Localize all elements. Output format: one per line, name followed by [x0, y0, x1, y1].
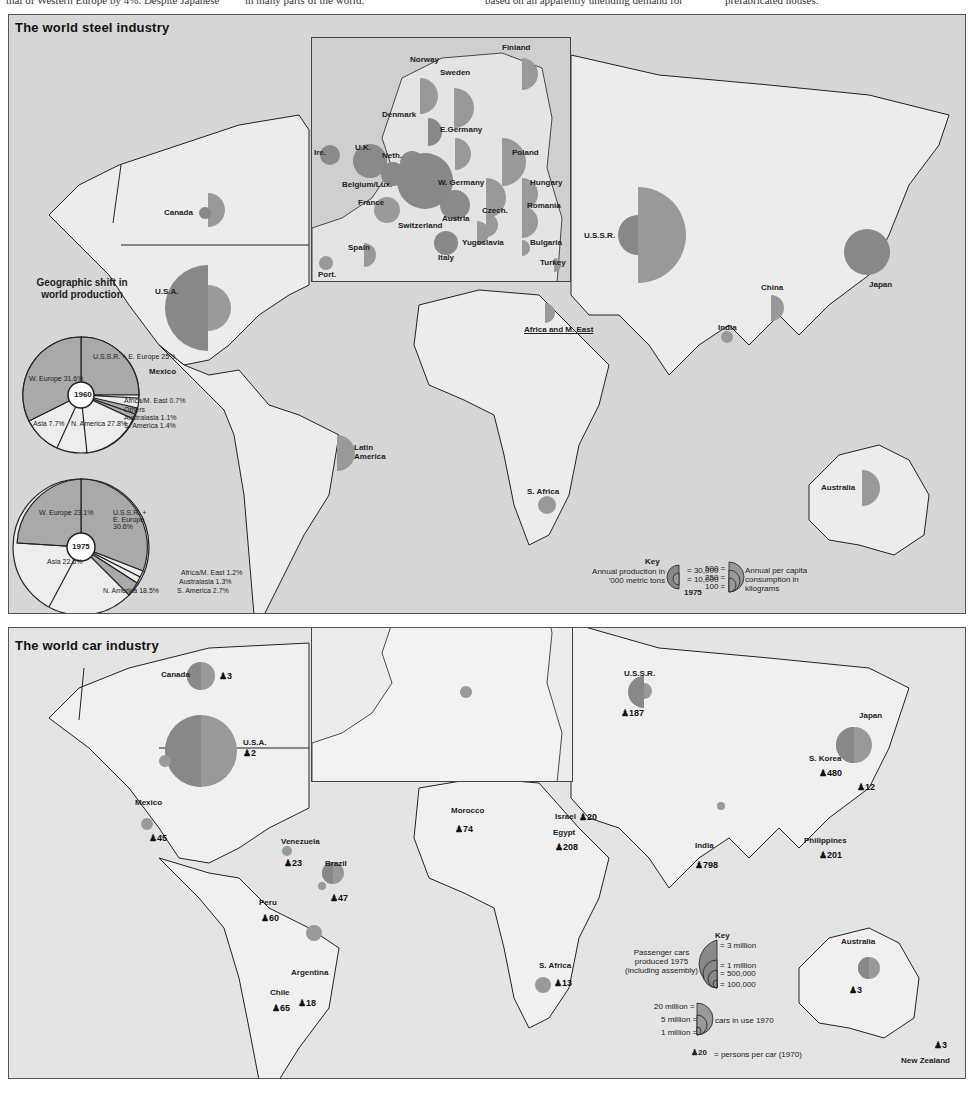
- car-label-peru: Peru: [259, 898, 277, 907]
- label-usa: U.S.A.: [155, 287, 179, 296]
- label-ussr: U.S.S.R.: [584, 231, 615, 240]
- pie-1960-s-america: S. America 1.4%: [124, 422, 176, 429]
- persons-s-korea: ♟480: [819, 768, 842, 778]
- car-label-canada: Canada: [161, 670, 190, 679]
- pie-1975-w-europe: W. Europe 23.1%: [39, 509, 93, 516]
- car-key-produced-label: Passenger cars produced 1975 (including …: [624, 948, 699, 975]
- car-industry-map: The world car industry: [8, 627, 966, 1079]
- car-key-20-million: 20 million =: [654, 1002, 695, 1011]
- persons-india: ♟798: [695, 860, 718, 870]
- steel-industry-map: The world steel industry Finland Norway …: [8, 14, 966, 614]
- persons-canada: ♟3: [219, 671, 232, 681]
- pie-1960-asia: Asia 7.7%: [33, 420, 65, 427]
- steel-key-title: Key: [645, 557, 660, 566]
- persons-israel: ♟20: [579, 812, 597, 822]
- car-label-australia: Australia: [841, 937, 875, 946]
- pie-1975-africa: Africa/M. East 1.2%: [181, 569, 242, 576]
- label-canada: Canada: [164, 208, 193, 217]
- car-label-india: India: [695, 841, 714, 850]
- label-mexico: Mexico: [149, 367, 176, 376]
- pie-1960-africa: Africa/M. East 0.7%: [124, 397, 185, 404]
- production-pie-charts: [9, 305, 159, 614]
- car-key-3-million: = 3 million: [720, 941, 756, 950]
- persons-chile: ♟65: [272, 1003, 290, 1013]
- persons-egypt: ♟208: [555, 842, 578, 852]
- car-key-persons-label: = persons per car (1970): [714, 1050, 802, 1059]
- pie-1975-asia: Asia 22.6%: [47, 558, 82, 565]
- persons-mexico: ♟45: [149, 833, 167, 843]
- pie-1960-center: 1960: [74, 390, 92, 399]
- car-map-title: The world car industry: [15, 638, 159, 653]
- steel-key-cons-100: 100 =: [705, 582, 725, 591]
- pie-1960-others: Others: [124, 406, 145, 413]
- persons-s-africa: ♟13: [554, 978, 572, 988]
- pie-1960-ussr: U.S.S.R. + E. Europe 25%: [93, 353, 175, 360]
- persons-venezuela: ♟23: [284, 858, 302, 868]
- pie-chart-title: Geographic shift in world production: [27, 277, 137, 301]
- car-key-in-use-symbol: [695, 1001, 715, 1037]
- car-label-mexico: Mexico: [135, 798, 162, 807]
- label-latin-america: Latin America: [354, 443, 386, 461]
- pie-1960-w-europe: W. Europe 31.6%: [29, 375, 83, 382]
- car-key-5-million: 5 million =: [661, 1015, 697, 1024]
- car-label-chile: Chile: [270, 988, 290, 997]
- car-key-500000: = 500,000: [720, 969, 756, 978]
- steel-key-production-label: Annual production in '000 metric tons: [591, 567, 665, 585]
- persons-ussr: ♟187: [621, 708, 644, 718]
- car-key-person-symbol: ♟20: [691, 1048, 707, 1057]
- pie-1960-australasia: Australasia 1.1%: [124, 414, 177, 421]
- persons-argentina: ♟18: [298, 998, 316, 1008]
- car-label-brazil: Brazil: [325, 859, 347, 868]
- car-label-israel: Israel: [555, 812, 576, 821]
- page-text-col3: based on an apparently unending demand f…: [485, 0, 683, 6]
- car-label-venezuela: Venezuela: [281, 837, 320, 846]
- persons-new-zealand: ♟3: [934, 1040, 947, 1050]
- label-s-africa: S. Africa: [527, 487, 559, 496]
- persons-morocco: ♟74: [455, 824, 473, 834]
- steel-key-consumption-label: Annual per capita consumption in kilogra…: [745, 566, 815, 593]
- label-china: China: [761, 283, 783, 292]
- pie-1975-center: 1975: [72, 542, 90, 551]
- car-label-s-korea: S. Korea: [809, 754, 841, 763]
- car-label-new-zealand: New Zealand: [901, 1056, 950, 1065]
- page-text-col2: in many parts of the world.: [245, 0, 364, 6]
- steel-key-cons-250: 250 =: [705, 573, 725, 582]
- pie-1960-n-america: N. America 27.8%: [71, 420, 127, 427]
- car-label-morocco: Morocco: [451, 806, 484, 815]
- steel-map-title: The world steel industry: [15, 20, 169, 35]
- page-text-col1: that of Western Europe by 4%. Despite Ja…: [6, 0, 219, 6]
- persons-usa: ♟2: [243, 748, 256, 758]
- pie-1975-n-america: N. America 18.5%: [103, 587, 159, 594]
- steel-key-consumption-symbol: [727, 560, 747, 594]
- page-text-col4: prefabricated houses.: [725, 0, 818, 6]
- persons-brazil: ♟47: [330, 893, 348, 903]
- pie-1975-australasia: Australasia 1.3%: [179, 578, 232, 585]
- car-label-usa: U.S.A.: [243, 738, 267, 747]
- persons-philippines: ♟201: [819, 850, 842, 860]
- car-label-argentina: Argentina: [291, 968, 328, 977]
- steel-key-production-symbol: [665, 563, 685, 593]
- car-key-title: Key: [715, 931, 730, 940]
- persons-australia: ♟3: [849, 985, 862, 995]
- persons-japan: ♟12: [857, 782, 875, 792]
- car-label-japan: Japan: [859, 711, 882, 720]
- label-africa-me: Africa and M. East: [524, 325, 593, 334]
- car-label-s-africa: S. Africa: [539, 961, 571, 970]
- label-india: India: [718, 323, 737, 332]
- steel-key-year: 1975: [684, 588, 702, 597]
- label-japan: Japan: [869, 280, 892, 289]
- label-australia: Australia: [821, 483, 855, 492]
- car-label-philippines: Philippines: [804, 836, 847, 845]
- car-label-ussr: U.S.S.R.: [624, 669, 655, 678]
- persons-peru: ♟60: [261, 913, 279, 923]
- car-label-egypt: Egypt: [553, 828, 575, 837]
- pie-1975-ussr: U.S.S.R. + E. Europe 30.6%: [113, 509, 153, 530]
- car-key-1-million-use: 1 million =: [661, 1028, 697, 1037]
- pie-1975-s-america: S. America 2.7%: [177, 587, 229, 594]
- car-key-100000: = 100,000: [720, 980, 756, 989]
- car-key-in-use-label: cars in use 1970: [715, 1016, 774, 1025]
- steel-key-cons-500: 500 =: [705, 564, 725, 573]
